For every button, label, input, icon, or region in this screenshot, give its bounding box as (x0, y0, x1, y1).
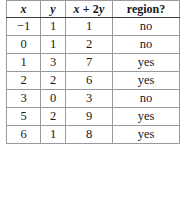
cell-x: 3 (7, 90, 41, 108)
page-canvas: x y x + 2y region? −1 1 1 no 0 1 2 no (0, 0, 190, 214)
cell-expression-value: 8 (66, 126, 113, 144)
cell-region-answer: no (113, 36, 180, 54)
cell-x: 1 (7, 54, 41, 72)
cell-y: 3 (41, 54, 66, 72)
table-header: x y x + 2y region? (7, 1, 180, 18)
table-row: 0 1 2 no (7, 36, 180, 54)
table-container: x y x + 2y region? −1 1 1 no 0 1 2 no (6, 0, 179, 144)
cell-y: 0 (41, 90, 66, 108)
cell-y: 1 (41, 18, 66, 36)
cell-y: 1 (41, 126, 66, 144)
cell-expression-value: 6 (66, 72, 113, 90)
cell-region-answer: yes (113, 54, 180, 72)
cell-y: 2 (41, 108, 66, 126)
cell-y: 1 (41, 36, 66, 54)
header-row: x y x + 2y region? (7, 1, 180, 18)
table-row: −1 1 1 no (7, 18, 180, 36)
column-header-region: region? (113, 1, 180, 18)
cell-region-answer: yes (113, 72, 180, 90)
cell-expression-value: 9 (66, 108, 113, 126)
cell-region-answer: no (113, 18, 180, 36)
expression-variable-y: y (99, 2, 104, 16)
cell-expression-value: 1 (66, 18, 113, 36)
cell-x: −1 (7, 18, 41, 36)
cell-x: 5 (7, 108, 41, 126)
cell-expression-value: 2 (66, 36, 113, 54)
column-header-y: y (41, 1, 66, 18)
cell-x: 2 (7, 72, 41, 90)
table-row: 3 0 3 no (7, 90, 180, 108)
table-body: −1 1 1 no 0 1 2 no 1 3 7 yes (7, 18, 180, 144)
column-header-y-label: y (50, 2, 55, 16)
cell-region-answer: yes (113, 108, 180, 126)
values-table: x y x + 2y region? −1 1 1 no 0 1 2 no (6, 0, 180, 144)
table-row: 1 3 7 yes (7, 54, 180, 72)
cell-x: 6 (7, 126, 41, 144)
table-row: 5 2 9 yes (7, 108, 180, 126)
cell-y: 2 (41, 72, 66, 90)
column-header-x: x (7, 1, 41, 18)
table-row: 2 2 6 yes (7, 72, 180, 90)
cell-expression-value: 7 (66, 54, 113, 72)
cell-expression-value: 3 (66, 90, 113, 108)
column-header-expression: x + 2y (66, 1, 113, 18)
column-header-x-label: x (21, 2, 27, 16)
cell-x: 0 (7, 36, 41, 54)
expression-operator: + 2 (80, 2, 99, 16)
cell-region-answer: yes (113, 126, 180, 144)
cell-region-answer: no (113, 90, 180, 108)
table-row: 6 1 8 yes (7, 126, 180, 144)
